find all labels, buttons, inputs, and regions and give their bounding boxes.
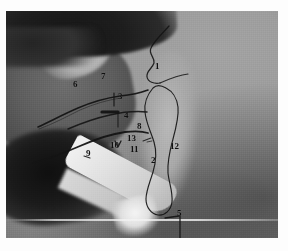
screenshot-root: 12345678910111213	[0, 0, 288, 251]
label-6: 6	[73, 80, 78, 89]
label-7: 7	[101, 72, 106, 81]
label-13: 13	[127, 134, 136, 143]
label-8: 8	[137, 122, 142, 131]
label-9: 9	[86, 149, 91, 158]
label-12: 12	[170, 142, 179, 151]
label-2: 2	[151, 156, 156, 165]
label-3: 3	[118, 92, 123, 101]
label-10: 10	[110, 141, 119, 150]
label-11: 11	[130, 145, 139, 154]
label-4: 4	[124, 111, 129, 120]
vignette-overlay	[6, 11, 278, 238]
label-1: 1	[155, 62, 160, 71]
figure-caption	[6, 240, 278, 249]
label-5: 5	[177, 209, 182, 218]
clinical-photograph: 12345678910111213	[6, 11, 278, 238]
